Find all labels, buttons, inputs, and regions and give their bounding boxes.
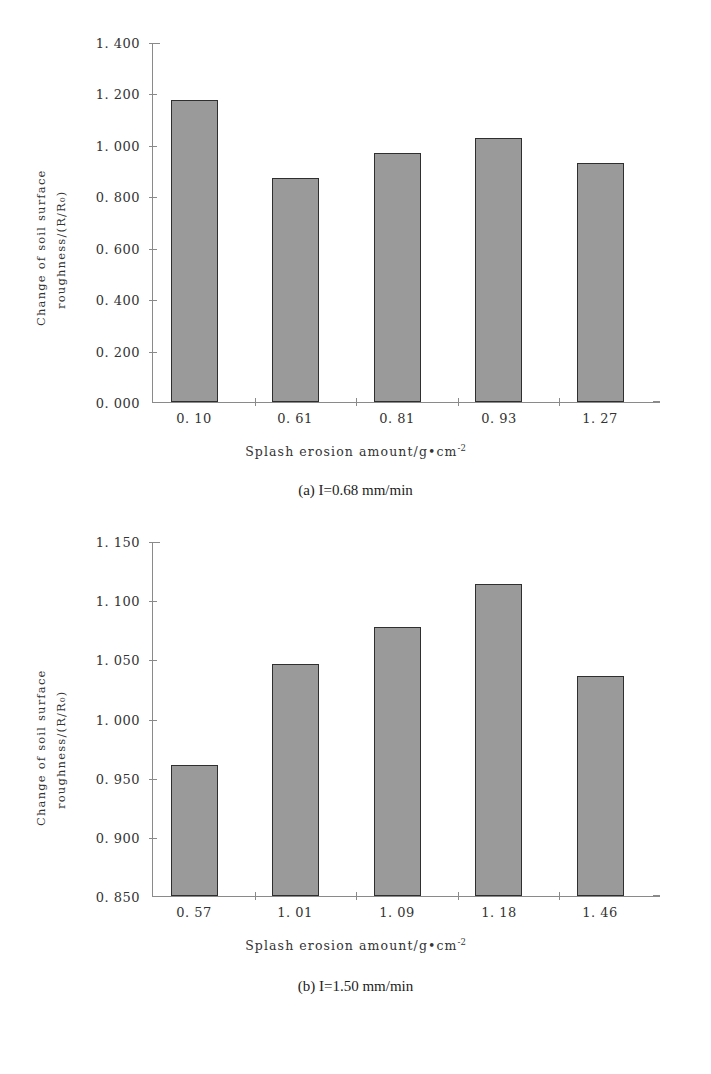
y-tick-label: 0. 850 (78, 890, 140, 905)
x-axis-tick (356, 892, 357, 900)
y-axis-tick (149, 601, 157, 602)
x-tick-label: 0. 93 (481, 411, 517, 426)
y-tick-label: 1. 200 (78, 87, 140, 102)
x-tick-label: 1. 09 (379, 905, 415, 920)
y-axis-title-line1-b: Change of soil surface (34, 618, 48, 878)
bar-0 (171, 765, 218, 896)
y-axis-tick (149, 197, 157, 198)
figure-caption-a: (a) I=0.68 mm/min (0, 482, 711, 499)
x-axis-tick (356, 398, 357, 406)
y-tick-label: 1. 050 (78, 653, 140, 668)
y-tick-label: 0. 600 (78, 242, 140, 257)
y-tick-label: 1. 000 (78, 139, 140, 154)
x-tick-label: 1. 01 (277, 905, 313, 920)
bar-3 (475, 138, 522, 402)
x-tick-label: 0. 61 (277, 411, 313, 426)
x-axis-tick (255, 892, 256, 900)
y-axis-tick (149, 43, 157, 44)
bar-1 (272, 664, 319, 896)
bar-2 (374, 627, 421, 896)
y-tick-label: 0. 950 (78, 772, 140, 787)
y-axis-title-line1-a: Change of soil surface (34, 118, 48, 378)
x-axis-title-exponent: -2 (458, 443, 466, 453)
y-axis-title-line2-b: roughness/(R/R₀) (54, 640, 68, 860)
y-axis-title-line2-a: roughness/(R/R₀) (54, 140, 68, 360)
bar-0 (171, 100, 218, 402)
y-axis-tick (149, 660, 157, 661)
y-axis-tick (149, 94, 157, 95)
y-tick-label: 0. 900 (78, 831, 140, 846)
x-axis-tick (458, 892, 459, 900)
y-axis-tick-labels-a: 1. 400 1. 200 1. 000 0. 800 0. 600 0. 40… (78, 0, 140, 420)
x-axis-tick (559, 892, 560, 900)
y-axis-tick (149, 352, 157, 353)
x-tick-label: 1. 27 (582, 411, 618, 426)
bar-2 (374, 153, 421, 402)
y-tick-label: 0. 800 (78, 190, 140, 205)
bar-4 (577, 163, 624, 402)
y-axis-tick (149, 249, 157, 250)
y-axis-tick-labels-b: 1. 150 1. 100 1. 050 1. 000 0. 950 0. 90… (78, 500, 140, 920)
x-axis-tick (255, 398, 256, 406)
plot-area-b (152, 542, 660, 897)
x-tick-label: 1. 46 (582, 905, 618, 920)
y-tick-label: 0. 200 (78, 345, 140, 360)
x-axis-title-b: Splash erosion amount/g•cm-2 (0, 937, 711, 953)
x-tick-label: 0. 57 (176, 905, 212, 920)
y-axis-tick (149, 542, 157, 543)
x-tick-label: 0. 10 (176, 411, 212, 426)
y-tick-label: 1. 150 (78, 535, 140, 550)
axis-bottom-right-cap (653, 895, 660, 896)
y-tick-label: 1. 100 (78, 594, 140, 609)
x-axis-title-a: Splash erosion amount/g•cm-2 (0, 443, 711, 459)
x-axis-title-text: Splash erosion amount/g•cm (245, 444, 457, 459)
bar-3 (475, 584, 522, 896)
y-tick-label: 1. 000 (78, 713, 140, 728)
axis-bottom-right-cap (653, 401, 660, 402)
bar-4 (577, 676, 624, 896)
x-tick-label: 0. 81 (379, 411, 415, 426)
x-axis-tick (559, 398, 560, 406)
y-axis-tick (149, 146, 157, 147)
bar-1 (272, 178, 319, 403)
figure-panel-a: Change of soil surface roughness/(R/R₀) … (0, 0, 711, 520)
y-tick-label: 0. 000 (78, 396, 140, 411)
y-tick-label: 1. 400 (78, 36, 140, 51)
y-axis-tick (149, 720, 157, 721)
x-axis-title-exponent: -2 (458, 937, 466, 947)
figure-panel-b: Change of soil surface roughness/(R/R₀) … (0, 500, 711, 1074)
y-axis-tick (149, 779, 157, 780)
figure-caption-b: (b) I=1.50 mm/min (0, 978, 711, 995)
x-axis-title-text: Splash erosion amount/g•cm (245, 938, 457, 953)
x-axis-tick (458, 398, 459, 406)
plot-area-a (152, 43, 660, 403)
y-axis-tick (149, 838, 157, 839)
y-tick-label: 0. 400 (78, 293, 140, 308)
y-axis-tick (149, 300, 157, 301)
x-tick-label: 1. 18 (481, 905, 517, 920)
